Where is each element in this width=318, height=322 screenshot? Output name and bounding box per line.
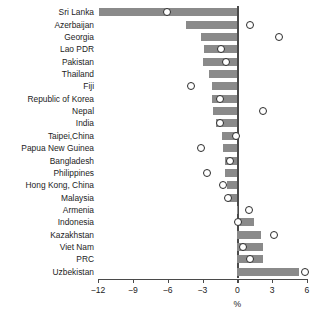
bar bbox=[227, 181, 237, 189]
bar bbox=[213, 107, 237, 115]
category-label: Sri Lanka bbox=[0, 8, 94, 16]
bar bbox=[186, 21, 237, 29]
x-axis-tick-label: −9 bbox=[128, 285, 138, 295]
category-label: Pakistan bbox=[0, 57, 94, 65]
category-label: Papua New Guinea bbox=[0, 144, 94, 152]
x-axis-tick bbox=[203, 279, 204, 283]
bar bbox=[225, 169, 238, 177]
data-point-marker bbox=[259, 107, 267, 115]
category-label: Lao PDR bbox=[0, 45, 94, 53]
chart-row bbox=[98, 68, 307, 80]
chart-row bbox=[98, 154, 307, 166]
chart-row bbox=[98, 253, 307, 265]
chart-row bbox=[98, 142, 307, 154]
category-label: Malaysia bbox=[0, 193, 94, 201]
bar bbox=[212, 82, 238, 90]
data-point-marker bbox=[216, 95, 224, 103]
data-point-marker bbox=[216, 119, 224, 127]
data-point-marker bbox=[226, 157, 234, 165]
bar bbox=[237, 268, 299, 276]
category-label: Fiji bbox=[0, 82, 94, 90]
data-point-marker bbox=[197, 144, 205, 152]
category-label: Kazakhstan bbox=[0, 231, 94, 239]
x-axis-tick bbox=[272, 279, 273, 283]
category-label: Bangladesh bbox=[0, 156, 94, 164]
category-label: Hong Kong, China bbox=[0, 181, 94, 189]
chart-row bbox=[98, 55, 307, 67]
x-axis-title: % bbox=[234, 299, 242, 309]
x-axis-tick-label: 0 bbox=[235, 285, 240, 295]
plot-area bbox=[98, 6, 307, 278]
chart-row bbox=[98, 105, 307, 117]
category-label: India bbox=[0, 119, 94, 127]
x-axis-tick-label: −3 bbox=[198, 285, 208, 295]
x-axis-tick-label: 6 bbox=[305, 285, 310, 295]
data-point-marker bbox=[224, 194, 232, 202]
data-point-marker bbox=[163, 8, 171, 16]
x-axis-tick bbox=[168, 279, 169, 283]
category-label: Republic of Korea bbox=[0, 95, 94, 103]
chart-row bbox=[98, 204, 307, 216]
bar bbox=[223, 144, 237, 152]
chart-row bbox=[98, 216, 307, 228]
x-axis-tick bbox=[133, 279, 134, 283]
chart-row bbox=[98, 167, 307, 179]
data-point-marker bbox=[203, 169, 211, 177]
category-axis: Sri LankaAzerbaijanGeorgiaLao PDRPakista… bbox=[0, 6, 94, 278]
chart-row bbox=[98, 43, 307, 55]
chart-row bbox=[98, 191, 307, 203]
x-axis-tick bbox=[237, 279, 238, 283]
chart-row bbox=[98, 229, 307, 241]
category-label: Nepal bbox=[0, 107, 94, 115]
category-label: Taipei,China bbox=[0, 132, 94, 140]
x-axis-tick bbox=[307, 279, 308, 283]
data-point-marker bbox=[187, 82, 195, 90]
category-label: Georgia bbox=[0, 33, 94, 41]
data-point-marker bbox=[301, 268, 309, 276]
chart-row bbox=[98, 117, 307, 129]
data-point-marker bbox=[217, 45, 225, 53]
data-point-marker bbox=[275, 33, 283, 41]
category-label: Uzbekistan bbox=[0, 268, 94, 276]
bar bbox=[237, 206, 238, 214]
data-point-marker bbox=[234, 218, 242, 226]
data-point-marker bbox=[270, 231, 278, 239]
data-point-marker bbox=[239, 243, 247, 251]
chart-row bbox=[98, 266, 307, 278]
chart-row bbox=[98, 130, 307, 142]
bar bbox=[237, 231, 260, 239]
chart-row bbox=[98, 179, 307, 191]
category-label: Armenia bbox=[0, 206, 94, 214]
bar bbox=[209, 70, 237, 78]
category-label: PRC bbox=[0, 255, 94, 263]
bar bbox=[201, 33, 237, 41]
x-axis-tick-label: −6 bbox=[163, 285, 173, 295]
data-point-marker bbox=[219, 181, 227, 189]
x-axis-tick-label: −12 bbox=[91, 285, 106, 295]
category-label: Azerbaijan bbox=[0, 20, 94, 28]
x-axis-tick-label: 3 bbox=[270, 285, 275, 295]
data-point-marker bbox=[245, 206, 253, 214]
chart-row bbox=[98, 241, 307, 253]
category-label: Thailand bbox=[0, 70, 94, 78]
x-axis-tick bbox=[98, 279, 99, 283]
bar bbox=[203, 58, 238, 66]
category-label: Philippines bbox=[0, 169, 94, 177]
chart-row bbox=[98, 31, 307, 43]
data-point-marker bbox=[246, 21, 254, 29]
data-point-marker bbox=[246, 255, 254, 263]
chart-row bbox=[98, 6, 307, 18]
chart-container: Sri LankaAzerbaijanGeorgiaLao PDRPakista… bbox=[0, 0, 318, 322]
chart-row bbox=[98, 80, 307, 92]
category-label: Viet Nam bbox=[0, 243, 94, 251]
chart-row bbox=[98, 93, 307, 105]
data-point-marker bbox=[222, 58, 230, 66]
chart-row bbox=[98, 18, 307, 30]
data-point-marker bbox=[232, 132, 240, 140]
category-label: Indonesia bbox=[0, 218, 94, 226]
